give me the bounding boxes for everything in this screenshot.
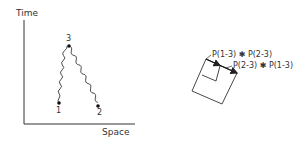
vector-arrow-1 [206,59,220,66]
propagator-1-3 [58,46,67,103]
amplitude-vector-diagram [192,55,237,104]
vector-label-p23-p13: P(2-3) ✱ P(1-3) [233,62,293,70]
label-leader-1 [206,55,211,59]
label-leader-2 [226,66,232,68]
spacetime-diagram [24,20,135,124]
propagator-3-2 [69,46,98,102]
figure-canvas [0,0,307,143]
point-label-3: 3 [66,35,71,43]
point-label-1: 1 [56,107,61,115]
time-axis-label: Time [16,9,38,18]
inner-square [202,66,220,81]
vector-label-p13-p23: P(1-3) ✱ P(2-3) [212,51,272,59]
space-axis-label: Space [102,128,129,137]
event-point-3 [67,44,71,48]
point-label-2: 2 [97,109,102,117]
event-point-1 [57,101,61,105]
outer-square [192,59,237,104]
